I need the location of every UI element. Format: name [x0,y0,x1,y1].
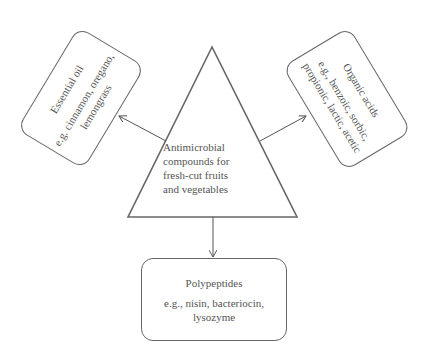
arrow-to-organic-acids [260,116,306,141]
polypeptides-box: Polypeptides e.g., nisin, bacteriocin, l… [141,258,287,341]
polypeptides-examples: e.g., nisin, bacteriocin, lysozyme [164,296,264,324]
arrow-to-essential-oil [119,116,166,141]
polypeptides-title: Polypeptides [186,276,243,290]
center-label: Antimicrobial compounds for fresh-cut fr… [163,140,263,196]
